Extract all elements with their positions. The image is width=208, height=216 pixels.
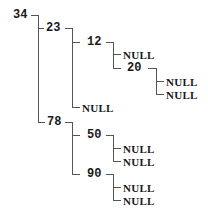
- tree-node-null: NULL: [123, 195, 155, 207]
- tree-node-null: NULL: [123, 49, 155, 61]
- tree-node-12: 12: [87, 36, 101, 48]
- connector-23: [65, 29, 73, 108]
- tree-node-34: 34: [13, 9, 27, 21]
- tree-node-78: 78: [47, 116, 61, 128]
- binary-tree-diagram: 34 23 12 NULL 20 NULL NULL NULL 78 50 NU…: [0, 0, 208, 216]
- tree-node-null: NULL: [82, 102, 114, 114]
- tree-node-null: NULL: [123, 143, 155, 155]
- connector-34: [31, 16, 39, 123]
- tree-node-20: 20: [127, 62, 141, 74]
- connector-20: [148, 69, 157, 95]
- tree-node-23: 23: [46, 22, 60, 34]
- connector-12: [106, 43, 114, 69]
- tree-node-null: NULL: [123, 182, 155, 194]
- connector-78: [65, 123, 73, 175]
- connector-50: [106, 136, 114, 162]
- tree-node-90: 90: [87, 168, 101, 180]
- tree-node-null: NULL: [123, 156, 155, 168]
- connector-90: [106, 175, 114, 201]
- tree-node-null: NULL: [166, 76, 198, 88]
- tree-node-null: NULL: [166, 89, 198, 101]
- tree-node-50: 50: [87, 129, 101, 141]
